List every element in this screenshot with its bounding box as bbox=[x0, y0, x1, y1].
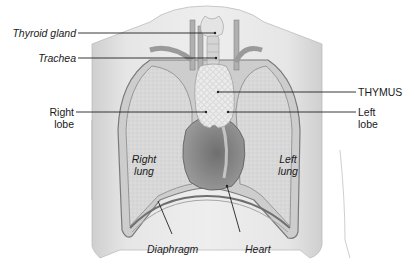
thymus-shape bbox=[195, 64, 235, 128]
label-thyroid-gland: Thyroid gland bbox=[2, 27, 76, 39]
label-diaphragm: Diaphragm bbox=[147, 243, 198, 255]
label-left-lobe-1: Left bbox=[358, 106, 376, 118]
label-right-lobe-1: Right bbox=[40, 106, 74, 118]
label-thymus: THYMUS bbox=[358, 86, 402, 98]
label-right-lung-1: Right bbox=[124, 153, 164, 165]
label-heart: Heart bbox=[245, 243, 271, 255]
heart-shape bbox=[183, 116, 245, 190]
trachea-shape bbox=[207, 36, 219, 66]
thymus-anatomy-diagram: Thyroid gland Trachea Right lobe THYMUS … bbox=[0, 0, 414, 271]
thyroid-shape bbox=[201, 16, 224, 37]
label-left-lung-2: lung bbox=[268, 165, 308, 177]
label-right-lung-2: lung bbox=[124, 165, 164, 177]
label-left-lobe-2: lobe bbox=[358, 118, 378, 130]
label-right-lobe-2: lobe bbox=[40, 118, 74, 130]
torso-illustration bbox=[0, 0, 414, 271]
label-left-lung-1: Left bbox=[268, 153, 308, 165]
label-trachea: Trachea bbox=[2, 52, 76, 64]
